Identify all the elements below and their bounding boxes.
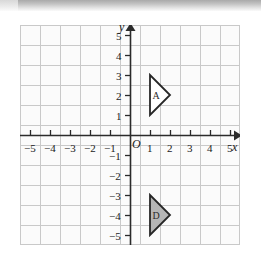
coordinate-plane-svg: A D xyxy=(20,25,240,245)
x-tick-label-1: 1 xyxy=(147,143,153,154)
origin-label: O xyxy=(132,138,141,150)
x-tick-label--3: −3 xyxy=(64,143,76,154)
x-tick-label-2: 2 xyxy=(167,143,173,154)
x-tick-label--4: −4 xyxy=(44,143,56,154)
triangle-a-label: A xyxy=(152,90,160,101)
scan-gradient-band-left xyxy=(0,0,18,11)
x-tick-label--2: −2 xyxy=(84,143,96,154)
y-tick-label-1: 1 xyxy=(116,111,122,122)
x-tick-label-4: 4 xyxy=(207,143,213,154)
axis-lines xyxy=(20,31,234,245)
y-tick-label--5: −5 xyxy=(109,231,121,242)
coordinate-plane: A D −5 −4 −3 −2 −1 1 2 3 4 5 5 4 3 2 1 −… xyxy=(20,25,240,245)
figure-canvas: A D −5 −4 −3 −2 −1 1 2 3 4 5 5 4 3 2 1 −… xyxy=(0,0,261,261)
y-tick-label--1: −1 xyxy=(109,151,121,162)
y-axis-name: y xyxy=(119,21,124,33)
x-axis-name: x xyxy=(232,141,237,153)
y-tick-label--2: −2 xyxy=(109,171,121,182)
x-tick-label-3: 3 xyxy=(187,143,193,154)
x-tick-label--5: −5 xyxy=(24,143,36,154)
triangle-d-label: D xyxy=(152,210,159,221)
y-tick-label--3: −3 xyxy=(109,191,121,202)
y-tick-label-2: 2 xyxy=(116,91,122,102)
y-tick-label-3: 3 xyxy=(116,71,122,82)
y-tick-label--4: −4 xyxy=(109,211,121,222)
y-tick-label-4: 4 xyxy=(116,51,122,62)
scan-gradient-band xyxy=(0,0,261,11)
